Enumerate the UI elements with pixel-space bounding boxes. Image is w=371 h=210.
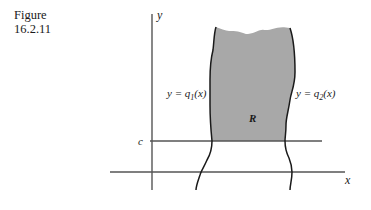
right-curve-label-suffix: (x) bbox=[323, 87, 336, 100]
region-label-r: R bbox=[248, 112, 256, 124]
left-curve-label-suffix: (x) bbox=[194, 87, 207, 100]
y-axis-label: y bbox=[156, 8, 163, 22]
left-curve-label: y = q1(x) bbox=[166, 87, 207, 102]
left-curve-label-prefix: y = q bbox=[166, 87, 191, 99]
figure-container: Figure 16.2.11 y x c y = q1(x) y = q2(x) bbox=[0, 0, 371, 210]
diagram-plot: y x c y = q1(x) y = q2(x) R bbox=[0, 0, 371, 210]
right-curve-label-prefix: y = q bbox=[295, 87, 320, 99]
right-curve-label: y = q2(x) bbox=[295, 87, 336, 102]
x-axis-label: x bbox=[344, 173, 351, 187]
c-tick-label: c bbox=[138, 135, 143, 147]
